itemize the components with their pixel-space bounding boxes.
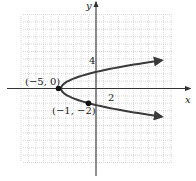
parabola-chart: y x 4 2 (−5, 0) (−1, −2) [0, 0, 196, 181]
x-axis-label: x [185, 94, 191, 105]
labels: y x 4 2 (−5, 0) (−1, −2) [25, 0, 191, 116]
axes [7, 2, 190, 176]
x-tick-label-2: 2 [108, 92, 114, 103]
point-label-minus1-minus2: (−1, −2) [52, 105, 96, 116]
y-axis-label: y [85, 0, 92, 11]
y-tick-label-4: 4 [89, 55, 95, 66]
point-label-vertex: (−5, 0) [25, 76, 60, 87]
